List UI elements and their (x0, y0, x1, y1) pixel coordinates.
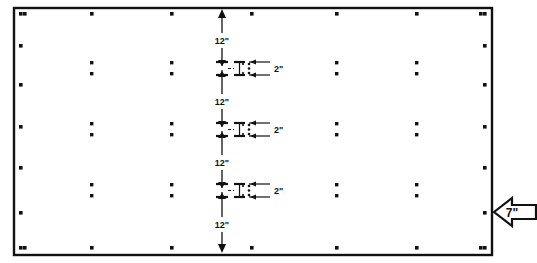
fastener-dot (250, 246, 254, 250)
fastener-dot (90, 183, 93, 186)
fastener-dot (335, 246, 339, 250)
right-edge-fasteners (483, 12, 487, 250)
fastener-dot (19, 246, 23, 250)
edge-callout-label: 7" (506, 206, 518, 220)
fastener-dot (19, 44, 23, 48)
fastener-dot (170, 246, 174, 250)
fastener-dot (483, 44, 487, 48)
diagram-canvas: 12" 12" 12" 12" (0, 0, 537, 263)
fastener-dot (415, 12, 419, 16)
fastener-dot (19, 125, 23, 129)
fastener-dot (90, 12, 94, 16)
dimension-arrow-up (218, 9, 226, 18)
dimension-label-12-4: 12" (215, 220, 229, 230)
detail-callout-row-3: 2" (216, 182, 283, 200)
edge-callout-7in: 7" (494, 198, 536, 226)
fastener-dot (19, 166, 23, 170)
fastener-dot (415, 246, 419, 250)
fastener-dot (90, 133, 93, 136)
fastener-dot (335, 133, 338, 136)
fastener-dot (415, 133, 418, 136)
fastener-dot (415, 122, 418, 125)
fastener-dot (483, 125, 487, 129)
left-edge-fasteners (19, 12, 23, 250)
fastener-dot (170, 122, 173, 125)
detail-label-2in-3: 2" (274, 186, 283, 196)
detail-label-2in-1: 2" (274, 64, 283, 74)
fastener-dot (19, 12, 23, 16)
fastener-dot (335, 122, 338, 125)
fastener-dot (335, 194, 338, 197)
fastener-dot (90, 61, 93, 64)
fastener-dot (170, 194, 173, 197)
fastener-dot (90, 246, 94, 250)
fastener-dot (335, 72, 338, 75)
fastener-dot (170, 72, 173, 75)
fastener-dot (483, 166, 487, 170)
fastener-dot (170, 133, 173, 136)
dimension-label-12-1: 12" (215, 36, 229, 46)
detail-label-2in-2: 2" (274, 125, 283, 135)
fastener-dot (415, 183, 418, 186)
fastener-dot (335, 61, 338, 64)
fastener-dot (415, 61, 418, 64)
fastener-dot (170, 61, 173, 64)
fastener-dot (335, 12, 339, 16)
fastener-dot (170, 183, 173, 186)
fastener-dot (415, 194, 418, 197)
fastener-dot (483, 211, 487, 215)
fastener-dot (483, 83, 487, 87)
fastener-dot (335, 183, 338, 186)
fastener-dot (250, 12, 254, 16)
dimension-arrow-down (218, 244, 226, 253)
detail-callout-row-2: 2" (216, 121, 283, 139)
panel-outline (14, 8, 492, 255)
bottom-edge-fasteners (23, 246, 483, 250)
detail-callout-row-1: 2" (216, 60, 283, 78)
fastener-dot (23, 246, 27, 250)
fastener-dot (90, 194, 93, 197)
fastener-dot (170, 12, 174, 16)
fastener-dot (23, 12, 27, 16)
fastener-dot (415, 72, 418, 75)
fastener-dot (90, 122, 93, 125)
top-edge-fasteners (23, 12, 483, 16)
fastener-dot (479, 12, 483, 16)
fastener-dot (90, 72, 93, 75)
dimension-label-12-3: 12" (215, 158, 229, 168)
panel-fastener-diagram: 12" 12" 12" 12" (0, 0, 537, 263)
fastener-dot (479, 246, 483, 250)
fastener-dot (483, 12, 487, 16)
fastener-dot (483, 246, 487, 250)
fastener-dot (19, 211, 23, 215)
dimension-label-12-2: 12" (215, 97, 229, 107)
fastener-dot (19, 83, 23, 87)
